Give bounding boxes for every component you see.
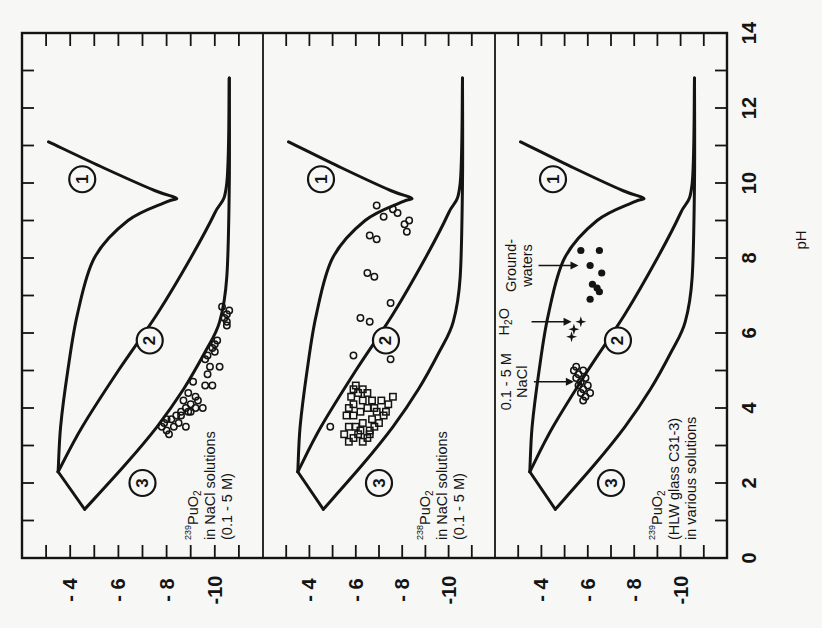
- data-point-filled-circle: [596, 247, 603, 254]
- curve-region-1-boundary: [49, 142, 177, 472]
- region-number: 1: [73, 175, 92, 184]
- arrowhead-icon: [571, 262, 579, 270]
- data-point-open-circle: [209, 382, 215, 388]
- data-point-open-circle: [380, 214, 386, 220]
- region-label-1: 1: [69, 166, 95, 192]
- isotope-superscript: 239: [183, 525, 193, 540]
- panel-annotation-line: 238PuO2: [415, 490, 435, 540]
- data-point-open-circle: [202, 382, 208, 388]
- conc-tick-label: -10: [204, 576, 226, 605]
- data-point-open-circle: [373, 202, 379, 208]
- data-point-open-circle: [364, 270, 370, 276]
- panel-annotation-line: (0.1 - 5 M): [451, 473, 467, 540]
- data-point-open-circle: [190, 379, 196, 385]
- arrowhead-icon: [564, 318, 572, 326]
- subscript: 2: [656, 490, 667, 496]
- data-point-open-circle: [200, 405, 206, 411]
- isotope-superscript: 238: [415, 525, 425, 540]
- conc-tick-label: - 8: [623, 578, 645, 601]
- h2o-h: H: [496, 325, 512, 335]
- curve-region-1-boundary: [289, 142, 413, 472]
- region-label-3: 3: [130, 470, 156, 496]
- data-point-open-square: [341, 431, 347, 437]
- data-point-filled-star: [575, 316, 586, 327]
- arrow-annotation-text: 0.1 - 5 M: [498, 353, 514, 410]
- region-label-1: 1: [308, 166, 334, 192]
- data-point-open-square: [364, 405, 370, 411]
- conc-tick-label: -10: [670, 576, 692, 605]
- data-point-filled-circle: [596, 288, 603, 295]
- data-point-open-circle: [387, 356, 393, 362]
- region-number: 3: [370, 478, 389, 487]
- curve-region-2-boundary: [58, 78, 229, 472]
- region-label-2: 2: [137, 328, 163, 354]
- annotations: 123239PuO2in NaCl solutions(0.1 - 5 M)12…: [69, 166, 699, 540]
- region-number: 1: [544, 175, 563, 184]
- ph-tick-label: 8: [738, 252, 760, 263]
- panel-annotation-line: 239PuO2: [647, 490, 667, 540]
- region-number: 3: [602, 478, 621, 487]
- conc-tick-label: - 4: [530, 577, 552, 601]
- region-number: 2: [376, 336, 395, 345]
- data-point-open-square: [369, 397, 375, 403]
- arrow-annotation: H2O: [496, 308, 572, 335]
- panel-annotation-line: in NaCl solutions: [434, 431, 450, 540]
- curve-cusp-link: [530, 472, 556, 510]
- ph-axis-label: pH: [792, 230, 809, 249]
- region-label-3: 3: [598, 470, 624, 496]
- panel-annotation-line: 239PuO2: [183, 490, 203, 540]
- region-label-3: 3: [366, 470, 392, 496]
- data-point-open-circle: [371, 274, 377, 280]
- data-point-open-square: [369, 416, 375, 422]
- data-point-open-square: [378, 397, 384, 403]
- data-point-open-circle: [357, 315, 363, 321]
- data-point-open-square: [360, 397, 366, 403]
- ph-tick-label: 0: [738, 552, 760, 563]
- data-point-open-square: [348, 394, 354, 400]
- data-point-open-circle: [216, 364, 222, 370]
- ph-tick-label: 4: [738, 402, 760, 414]
- data-point-open-circle: [373, 236, 379, 242]
- ph-tick-label: 6: [738, 327, 760, 338]
- compound-name: PuO: [649, 496, 665, 525]
- data-point-open-circle: [587, 390, 593, 396]
- curve-region-2-boundary: [530, 78, 695, 472]
- arrow-annotation: Ground-waters: [503, 239, 579, 292]
- arrow-annotation-text: waters: [519, 244, 535, 288]
- data-point-open-circle: [180, 397, 186, 403]
- compound-name: PuO: [417, 496, 433, 525]
- data-point-open-square: [390, 394, 396, 400]
- data-point-open-circle: [404, 229, 410, 235]
- panel-annotation-line: (HLW glass C31-3): [666, 418, 682, 540]
- conc-tick-label: -10: [438, 576, 460, 605]
- data-point-open-circle: [207, 364, 213, 370]
- data-point-open-circle: [585, 382, 591, 388]
- data-point-open-circle: [204, 371, 210, 377]
- ph-tick-label: 10: [738, 172, 760, 194]
- conc-tick-label: - 6: [345, 578, 367, 601]
- isotope-superscript: 239: [647, 525, 657, 540]
- panel-annotation-line: in NaCl solutions: [202, 431, 218, 540]
- data-point-open-circle: [367, 319, 373, 325]
- ph-tick-label: 14: [738, 21, 760, 44]
- region-label-2: 2: [605, 328, 631, 354]
- data-point-open-square: [343, 412, 349, 418]
- curve-cusp-link: [298, 472, 324, 510]
- region-number: 2: [608, 336, 627, 345]
- arrow-annotation-text: Ground-: [503, 239, 519, 292]
- subscript: 2: [192, 490, 203, 496]
- data-point-open-circle: [175, 420, 181, 426]
- data-point-open-square: [385, 401, 391, 407]
- curve-cusp-link: [58, 472, 85, 510]
- conc-tick-label: - 8: [391, 578, 413, 601]
- conc-tick-label: - 4: [59, 577, 81, 601]
- panel-annotation-line: (0.1 - 5 M): [219, 473, 235, 540]
- data-point-open-circle: [185, 390, 191, 396]
- region-label-1: 1: [540, 166, 566, 192]
- data-point-open-square: [350, 412, 356, 418]
- region-number: 3: [133, 478, 152, 487]
- region-label-2: 2: [373, 328, 399, 354]
- conc-tick-label: - 6: [577, 578, 599, 601]
- ph-tick-label: 12: [738, 97, 760, 119]
- conc-tick-label: - 6: [107, 578, 129, 601]
